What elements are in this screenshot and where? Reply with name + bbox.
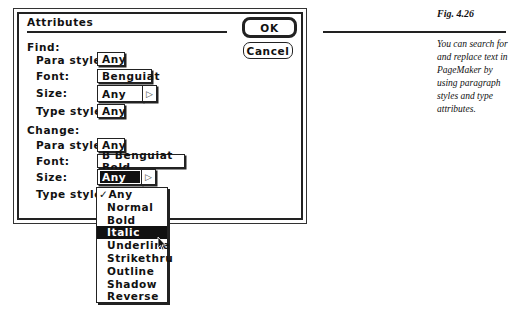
menu-item-normal[interactable]: Normal (97, 201, 167, 214)
cancel-label: Cancel (247, 45, 290, 57)
figure-label: Fig. 4.26 (437, 8, 474, 19)
find-size-field[interactable]: Any (97, 85, 143, 102)
find-font-label: Font: (36, 70, 70, 82)
ok-label: OK (260, 22, 278, 34)
change-font-label: Font: (36, 155, 70, 167)
triangle-right-icon: ▷ (145, 172, 152, 182)
find-type-style-popup[interactable]: Any (97, 104, 125, 118)
title-divider (27, 31, 227, 33)
find-size-arrow-button[interactable]: ▷ (142, 85, 157, 102)
menu-item-outline[interactable]: Outline (97, 265, 167, 278)
find-para-style-label: Para style: (36, 54, 106, 66)
change-para-style-label: Para style: (36, 139, 106, 151)
find-size-label: Size: (36, 87, 68, 99)
change-size-value: Any (100, 171, 140, 183)
figure-caption: You can search for and replace text in P… (437, 38, 512, 116)
find-type-style-value: Any (102, 105, 126, 117)
find-font-popup[interactable]: Benguiat (97, 69, 152, 83)
find-font-value: Benguiat (102, 70, 160, 82)
find-size-value: Any (102, 88, 126, 100)
find-para-style-value: Any (102, 53, 126, 65)
dialog-title: Attributes (27, 16, 93, 28)
cancel-button[interactable]: Cancel (243, 42, 293, 59)
find-para-style-popup[interactable]: Any (97, 52, 125, 66)
find-heading: Find: (27, 41, 60, 53)
ok-button[interactable]: OK (242, 17, 297, 38)
mouse-pointer-icon (157, 236, 167, 252)
change-font-popup[interactable]: B Benguiat Bold (97, 154, 185, 168)
change-size-label: Size: (36, 171, 68, 183)
change-heading: Change: (27, 124, 80, 136)
menu-item-reverse[interactable]: Reverse (97, 290, 167, 303)
change-size-arrow-button[interactable]: ▷ (141, 169, 156, 185)
menu-item-any[interactable]: ✓Any (97, 188, 167, 201)
change-size-field[interactable]: Any (97, 169, 142, 185)
figure-rule (323, 31, 506, 33)
menu-item-shadow[interactable]: Shadow (97, 278, 167, 291)
menu-item-bold[interactable]: Bold (97, 214, 167, 227)
menu-item-strikethru[interactable]: Strikethru (97, 252, 167, 265)
triangle-right-icon: ▷ (146, 89, 153, 99)
